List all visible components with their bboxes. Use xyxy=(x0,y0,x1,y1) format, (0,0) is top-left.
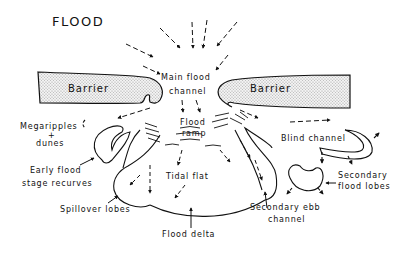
secondary-flood-lobes xyxy=(287,165,323,194)
flood-ramp-label-1: Flood xyxy=(180,118,206,128)
secondary-flood-lobes-label-2: flood lobes xyxy=(338,182,391,192)
diagram-title: FLOOD xyxy=(52,14,104,29)
early-flood-label-2: stage recurves xyxy=(22,179,93,189)
flood-ramp-label-2: ramp xyxy=(182,129,206,139)
secondary-ebb-channel-label-2: channel xyxy=(268,215,305,225)
megaripples-label-3: dunes xyxy=(36,139,64,149)
main-flood-channel-label-1: Main flood xyxy=(161,73,211,83)
main-flood-channel-label-2: channel xyxy=(169,87,206,97)
right-barrier-label: Barrier xyxy=(250,83,291,94)
recurve-lobes xyxy=(83,120,130,163)
secondary-ebb-channel-label-1: Secondary ebb xyxy=(250,203,320,213)
flood-delta-label: Flood delta xyxy=(162,230,215,240)
tidal-flat-label: Tidal flat xyxy=(166,172,209,182)
blind-channel-label: Blind channel xyxy=(281,134,346,144)
secondary-flood-lobes-label-1: Secondary xyxy=(338,171,388,181)
early-flood-label-1: Early flood xyxy=(30,166,81,176)
left-barrier-label: Barrier xyxy=(68,83,109,94)
spillover-lobes-label: Spillover lobes xyxy=(60,205,131,215)
